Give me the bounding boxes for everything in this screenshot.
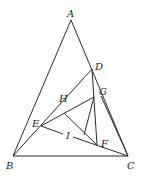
label-c: C <box>127 160 135 171</box>
label-i: I <box>65 130 71 141</box>
geometry-diagram: A B C D G E F H I <box>0 0 143 177</box>
segment-inner-g <box>84 97 94 135</box>
label-g: G <box>99 86 107 97</box>
label-e: E <box>31 118 40 129</box>
label-b: B <box>5 160 13 171</box>
segment-ab <box>13 20 71 156</box>
segment-ei <box>41 126 63 134</box>
label-d: D <box>94 61 103 72</box>
label-f: F <box>100 138 109 149</box>
label-h: H <box>58 93 68 104</box>
label-a: A <box>66 8 74 19</box>
segment-bd <box>13 69 92 156</box>
